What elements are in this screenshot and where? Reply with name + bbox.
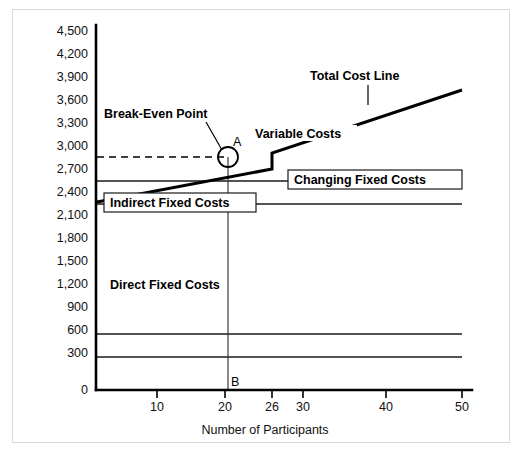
break-even-annotation: Break-Even Point <box>104 107 208 121</box>
y-tick-label: 900 <box>67 300 88 314</box>
x-tick-label: 20 <box>218 400 232 414</box>
y-tick-label: 3,300 <box>57 116 88 130</box>
y-tick-label: 3,600 <box>57 93 88 107</box>
y-tick-label: 3,900 <box>57 70 88 84</box>
variable-costs-annotation: Variable Costs <box>255 127 341 141</box>
x-tick-label: 26 <box>265 400 279 414</box>
break-even-chart: 4,500 4,200 3,900 3,600 3,300 3,000 2,70… <box>0 0 526 458</box>
y-tick-label: 300 <box>67 346 88 360</box>
total-cost-annotation: Total Cost Line <box>310 69 399 83</box>
x-tick-label: 30 <box>296 400 310 414</box>
y-tick-label: 2,400 <box>57 185 88 199</box>
y-tick-label: 1,800 <box>57 231 88 245</box>
y-tick-label: 4,200 <box>57 47 88 61</box>
y-tick-label: 0 <box>81 383 88 397</box>
indirect-fixed-costs-annotation: Indirect Fixed Costs <box>110 196 230 210</box>
changing-fixed-costs-annotation: Changing Fixed Costs <box>294 173 426 187</box>
y-tick-label: 600 <box>67 323 88 337</box>
break-even-leader-line <box>206 122 222 150</box>
x-axis-title: Number of Participants <box>201 423 328 437</box>
y-tick-label: 1,500 <box>57 254 88 268</box>
x-tick-label: 40 <box>379 400 393 414</box>
point-b-label: B <box>231 375 239 389</box>
y-tick-label: 4,500 <box>57 24 88 38</box>
y-tick-label: 3,000 <box>57 139 88 153</box>
x-tick-label: 10 <box>150 400 164 414</box>
point-a-label: A <box>233 135 242 149</box>
chart-canvas: 4,500 4,200 3,900 3,600 3,300 3,000 2,70… <box>0 0 526 458</box>
y-tick-label: 1,200 <box>57 277 88 291</box>
x-tick-label: 50 <box>455 400 469 414</box>
y-tick-label: 2,700 <box>57 162 88 176</box>
y-tick-label: 2,100 <box>57 208 88 222</box>
direct-fixed-costs-annotation: Direct Fixed Costs <box>110 278 220 292</box>
